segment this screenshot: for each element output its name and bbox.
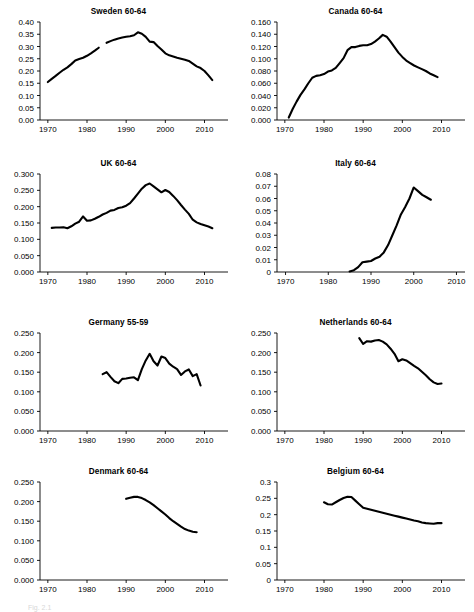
plot-area: 00.010.020.030.040.050.060.070.081970198… [237,169,474,290]
y-axis-tick-label: 0.050 [14,556,35,565]
y-axis-tick-label: 0.15 [18,79,34,88]
y-axis-tick-label: 0.300 [14,170,35,179]
x-axis-tick-label: 1970 [276,436,294,445]
plot-area: 0.000.050.100.150.200.250.300.350.401970… [0,17,237,138]
y-axis-tick-label: 0.000 [14,427,35,436]
y-axis-tick-label: 0.30 [18,43,34,52]
panel-title: Italy 60-64 [237,158,474,169]
x-axis-tick-label: 1990 [117,125,135,134]
data-series-line [103,354,201,386]
data-series-line [107,32,213,80]
y-axis-tick-label: 0.060 [251,79,272,88]
x-axis-tick-label: 1970 [39,436,57,445]
y-axis-tick-label: 0.15 [255,527,271,536]
x-axis-tick-label: 2000 [156,585,174,594]
y-axis-tick-label: 0.00 [18,116,34,125]
multi-panel-line-chart-figure: Sweden 60-64 0.000.050.100.150.200.250.3… [0,0,474,612]
plot-area: 0.0000.0500.1000.1500.2000.2501970198019… [237,328,474,449]
y-axis-tick-label: 0.020 [251,104,272,113]
y-axis-tick-label: 0.000 [251,116,272,125]
y-axis-tick-label: 0.080 [251,67,272,76]
x-axis-tick-label: 1990 [354,436,372,445]
y-axis-tick-label: 0.20 [18,67,34,76]
panel-belgium: Belgium 60-64 00.050.10.150.20.250.31970… [237,466,474,598]
panel-title: Canada 60-64 [237,6,474,17]
y-axis-tick-label: 0.03 [255,231,271,240]
chart-svg: 0.000.050.100.150.200.250.300.350.401970… [0,17,237,138]
data-series-line [48,48,99,82]
chart-svg: 0.0000.0500.1000.1500.2000.2501970198019… [237,328,474,449]
y-axis-tick-label: 0.200 [251,349,272,358]
y-axis-tick-label: 0.250 [14,329,35,338]
x-axis-tick-label: 1990 [117,585,135,594]
x-axis-tick-label: 1990 [354,585,372,594]
x-axis-tick-label: 1980 [315,125,333,134]
plot-area: 0.0000.0500.1000.1500.2000.2501970198019… [0,477,237,598]
y-axis-tick-label: 0.01 [255,256,271,265]
y-axis-tick-label: 0.40 [18,18,34,27]
y-axis-tick-label: 0.150 [14,219,35,228]
y-axis-tick-label: 0.050 [14,407,35,416]
x-axis-tick-label: 1970 [276,585,294,594]
plot-area: 0.0000.0500.1000.1500.2000.2500.30019701… [0,169,237,290]
y-axis-tick-label: 0.100 [14,388,35,397]
x-axis-tick-label: 2000 [156,277,174,286]
chart-svg: 0.0000.0500.1000.1500.2000.2501970198019… [0,477,237,598]
y-axis-tick-label: 0.100 [14,537,35,546]
y-axis-tick-label: 0.05 [255,207,271,216]
x-axis-tick-label: 1970 [39,277,57,286]
y-axis-tick-label: 0.160 [251,18,272,27]
x-axis-tick-label: 1980 [78,125,96,134]
x-axis-tick-label: 1980 [78,436,96,445]
data-series-line [52,183,213,228]
panel-title: Sweden 60-64 [0,6,237,17]
panel-uk: UK 60-64 0.0000.0500.1000.1500.2000.2500… [0,158,237,290]
y-axis-tick-label: 0 [267,576,272,585]
chart-svg: 0.0000.0200.0400.0600.0800.1000.1200.140… [237,17,474,138]
y-axis-tick-label: 0.140 [251,30,272,39]
x-axis-tick-label: 2010 [433,125,451,134]
y-axis-tick-label: 0.050 [251,407,272,416]
y-axis-tick-label: 0.06 [255,195,271,204]
x-axis-tick-label: 2010 [433,436,451,445]
chart-svg: 0.0000.0500.1000.1500.2000.2501970198019… [0,328,237,449]
y-axis-tick-label: 0.10 [18,92,34,101]
y-axis-tick-label: 0.150 [251,368,272,377]
panel-italy: Italy 60-64 00.010.020.030.040.050.060.0… [237,158,474,290]
y-axis-tick-label: 0.07 [255,182,271,191]
x-axis-tick-label: 2000 [393,125,411,134]
panel-title: Netherlands 60-64 [237,317,474,328]
x-axis-tick-label: 1980 [319,277,337,286]
data-series-line [289,35,438,118]
panel-title: Germany 55-59 [0,317,237,328]
y-axis-tick-label: 0.02 [255,244,271,253]
x-axis-tick-label: 1970 [39,125,57,134]
y-axis-tick-label: 0.200 [14,203,35,212]
y-axis-tick-label: 0 [267,268,272,277]
y-axis-tick-label: 0.1 [260,543,272,552]
y-axis-tick-label: 0.200 [14,498,35,507]
y-axis-tick-label: 0.100 [251,388,272,397]
y-axis-tick-label: 0.000 [14,576,35,585]
y-axis-tick-label: 0.08 [255,170,271,179]
panel-germany: Germany 55-59 0.0000.0500.1000.1500.2000… [0,317,237,449]
panel-netherlands: Netherlands 60-64 0.0000.0500.1000.1500.… [237,317,474,449]
data-series-line [324,497,442,524]
panel-title: UK 60-64 [0,158,237,169]
x-axis-tick-label: 1980 [78,277,96,286]
x-axis-tick-label: 1980 [78,585,96,594]
y-axis-tick-label: 0.150 [14,517,35,526]
x-axis-tick-label: 2010 [196,277,214,286]
x-axis-tick-label: 1990 [117,436,135,445]
x-axis-tick-label: 2000 [156,125,174,134]
y-axis-tick-label: 0.04 [255,219,271,228]
plot-area: 00.050.10.150.20.250.3197019801990200020… [237,477,474,598]
x-axis-tick-label: 2000 [393,436,411,445]
x-axis-tick-label: 2000 [393,585,411,594]
x-axis-tick-label: 2010 [448,277,466,286]
y-axis-tick-label: 0.05 [255,560,271,569]
plot-area: 0.0000.0200.0400.0600.0800.1000.1200.140… [237,17,474,138]
x-axis-tick-label: 1980 [315,585,333,594]
panel-canada: Canada 60-64 0.0000.0200.0400.0600.0800.… [237,6,474,138]
data-series-line [359,338,441,384]
